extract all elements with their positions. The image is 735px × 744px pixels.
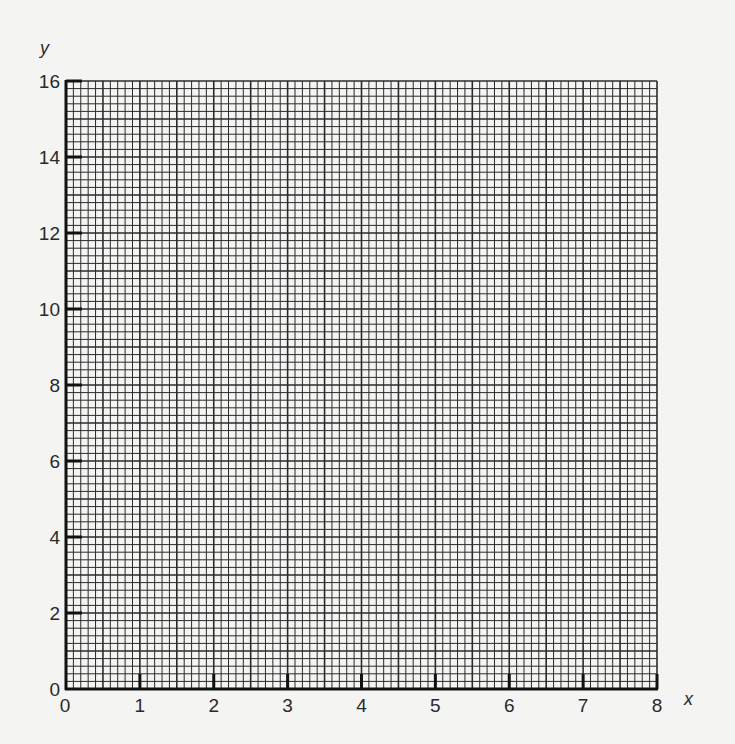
x-tick-label: 0 <box>60 695 71 716</box>
y-tick-label: 12 <box>39 223 60 244</box>
y-tick-label: 16 <box>39 71 60 92</box>
y-tick-label: 14 <box>39 147 61 168</box>
y-tick-label: 2 <box>49 603 60 624</box>
graph-paper-chart: 012345678 0246810121416 x y <box>0 0 735 744</box>
x-tick-label: 3 <box>282 695 293 716</box>
x-tick-label: 4 <box>356 695 367 716</box>
y-tick-label: 6 <box>49 451 60 472</box>
y-axis-label: y <box>38 38 50 58</box>
y-tick-label: 4 <box>49 527 60 548</box>
x-tick-label: 5 <box>430 695 441 716</box>
y-tick-labels: 0246810121416 <box>39 71 61 700</box>
y-tick-label: 8 <box>49 375 60 396</box>
x-tick-labels: 012345678 <box>60 695 663 716</box>
y-tick-label: 0 <box>49 679 60 700</box>
x-tick-label: 2 <box>208 695 219 716</box>
y-tick-label: 10 <box>39 299 60 320</box>
x-tick-label: 1 <box>135 695 146 716</box>
x-tick-label: 8 <box>652 695 663 716</box>
x-tick-label: 7 <box>578 695 589 716</box>
x-tick-label: 6 <box>504 695 515 716</box>
x-axis-label: x <box>683 689 694 709</box>
